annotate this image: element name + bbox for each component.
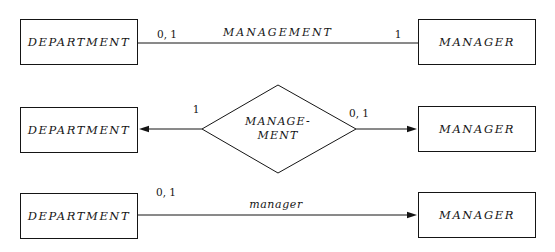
cardinality-label-row1-left: 0, 1 bbox=[157, 28, 177, 40]
relationship-name-row1: MANAGEMENT bbox=[223, 27, 333, 39]
cardinality-label-row1-right: 1 bbox=[395, 28, 402, 40]
entity-box-manager-row2: MANAGER bbox=[418, 106, 536, 152]
er-diagram-canvas: DEPARTMENT MANAGER DEPARTMENT MANAGER DE… bbox=[0, 0, 555, 252]
cardinality-label-row3-left: 0, 1 bbox=[156, 186, 176, 198]
entity-box-manager-row3: MANAGER bbox=[418, 192, 536, 238]
relationship-diamond-label-line1: MANAGE- bbox=[245, 115, 311, 129]
row3-arrowhead-icon bbox=[407, 212, 417, 219]
row2-left-arrowhead-icon bbox=[139, 126, 149, 133]
entity-label: MANAGER bbox=[439, 122, 515, 136]
entity-label: MANAGER bbox=[439, 208, 515, 222]
entity-label: DEPARTMENT bbox=[28, 209, 131, 223]
relationship-name-row3: manager bbox=[249, 199, 303, 211]
entity-box-manager-row1: MANAGER bbox=[418, 19, 536, 65]
entity-box-department-row1: DEPARTMENT bbox=[20, 19, 138, 65]
row2-right-arrowhead-icon bbox=[407, 126, 417, 133]
entity-label: MANAGER bbox=[439, 35, 515, 49]
entity-box-department-row3: DEPARTMENT bbox=[20, 193, 138, 239]
cardinality-label-row2-left: 1 bbox=[193, 103, 200, 115]
cardinality-label-row2-right: 0, 1 bbox=[349, 107, 369, 119]
entity-box-department-row2: DEPARTMENT bbox=[20, 107, 138, 153]
entity-label: DEPARTMENT bbox=[28, 35, 131, 49]
relationship-diamond-label-line2: MENT bbox=[245, 129, 311, 143]
relationship-diamond-label: MANAGE- MENT bbox=[245, 115, 311, 142]
entity-label: DEPARTMENT bbox=[28, 123, 131, 137]
